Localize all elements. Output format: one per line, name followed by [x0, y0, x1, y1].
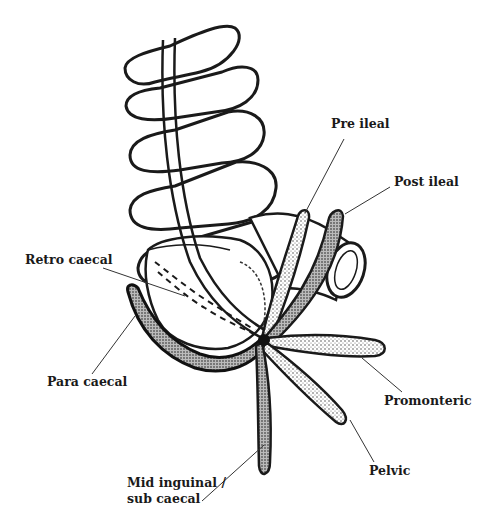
label-mid-inguinal-line1: Mid inguinal /: [127, 476, 226, 490]
appendix-base: [258, 334, 270, 346]
label-retro-caecal: Retro caecal: [25, 253, 113, 267]
label-post-ileal: Post ileal: [394, 175, 459, 189]
label-pre-ileal: Pre ileal: [331, 117, 390, 131]
appendix-promonteric: [266, 335, 385, 356]
label-pelvic: Pelvic: [369, 464, 410, 478]
label-para-caecal: Para caecal: [47, 375, 127, 389]
appendix-mid-inguinal: [256, 342, 271, 474]
label-promonteric: Promonteric: [384, 394, 472, 408]
label-mid-inguinal-line2: sub caecal: [127, 492, 200, 506]
